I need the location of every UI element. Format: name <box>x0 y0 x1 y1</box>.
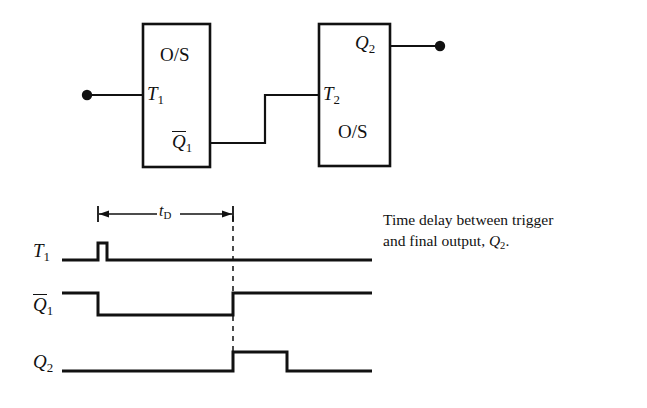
caption-line-2-post: . <box>505 232 509 249</box>
waveform-q1bar <box>62 293 372 315</box>
waveform-label-t1-text: T <box>33 240 44 261</box>
waveform-label-q1bar-sub: 1 <box>47 303 53 318</box>
waveform-label-t1-sub: 1 <box>44 249 50 264</box>
waveform-t1 <box>62 243 372 260</box>
caption-line-2: and final output, Q2. <box>383 231 509 253</box>
waveform-q2 <box>62 352 372 371</box>
waveform-label-q2: Q2 <box>33 352 53 375</box>
waveform-label-q2-text: Q <box>33 351 47 372</box>
waveform-label-t1: T1 <box>33 241 50 264</box>
delay-arrow-left-head <box>99 210 109 217</box>
caption-line-1: Time delay between trigger <box>383 210 553 230</box>
caption-line-2-pre: and final output, <box>383 232 489 249</box>
figure-canvas: O/S T1 Q1 Q2 T2 O/S tD T1 <box>0 0 647 408</box>
waveform-label-q1bar-text: Q <box>33 294 47 315</box>
delay-label: tD <box>159 203 171 221</box>
delay-label-sub: D <box>163 209 171 221</box>
delay-arrow-right-head <box>222 210 232 217</box>
waveform-label-q2-sub: 2 <box>47 360 53 375</box>
waveform-label-q1bar-overbar: Q <box>33 294 47 315</box>
waveform-label-q1bar: Q1 <box>33 294 53 318</box>
caption-line-2-variable: Q <box>489 232 500 249</box>
timing-diagram <box>0 0 647 408</box>
